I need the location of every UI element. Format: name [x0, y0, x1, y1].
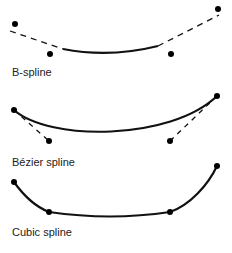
cubic-spline-curve: [14, 166, 217, 217]
bezier-control-point-1: [46, 138, 52, 144]
cubic-knot-2: [46, 209, 52, 215]
bezier-spline-label: Bézier spline: [12, 156, 75, 168]
b-spline-label: B-spline: [12, 66, 52, 78]
b-spline-control-point-2: [47, 51, 53, 57]
bezier-curve: [14, 96, 217, 132]
bezier-endpoint-start: [11, 107, 17, 113]
b-spline-control-polyline-left: [10, 31, 63, 49]
b-spline-figure: [10, 6, 221, 57]
cubic-knot-1: [11, 179, 17, 185]
bezier-spline-figure: [11, 93, 220, 144]
b-spline-control-polyline-right: [158, 15, 219, 46]
cubic-knot-4: [214, 163, 220, 169]
cubic-spline-figure: [11, 163, 220, 217]
cubic-knot-3: [167, 209, 173, 215]
bezier-control-point-2: [167, 138, 173, 144]
cubic-spline-label: Cubic spline: [12, 226, 72, 238]
spline-diagram: [0, 0, 232, 253]
b-spline-control-point-4: [215, 6, 221, 12]
bezier-endpoint-end: [214, 93, 220, 99]
b-spline-curve: [63, 46, 158, 53]
b-spline-control-point-1: [12, 21, 18, 27]
b-spline-control-point-3: [168, 51, 174, 57]
